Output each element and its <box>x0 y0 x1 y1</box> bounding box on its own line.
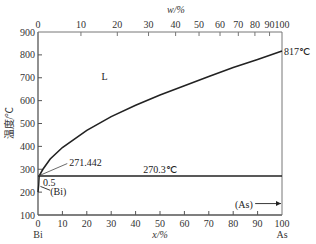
y-tick-label: 900 <box>20 27 35 38</box>
phase-diagram: 1002003004005006007008009000102030405060… <box>0 0 316 244</box>
y-tick-label: 500 <box>20 118 35 129</box>
top-tick-label: 30 <box>144 19 154 30</box>
y-tick-label: 200 <box>20 187 35 198</box>
x-tick-label: 30 <box>106 218 116 229</box>
y-tick-label: 400 <box>20 141 35 152</box>
left-component-label: Bi <box>33 229 43 240</box>
right-component-label: As <box>276 229 287 240</box>
x-tick-label: 10 <box>57 218 67 229</box>
y-tick-label: 600 <box>20 95 35 106</box>
x-tick-label: 60 <box>179 218 189 229</box>
top-tick-label: 20 <box>112 19 122 30</box>
annotations: L817℃271.442270.3℃0.5(Bi)(As) <box>39 46 310 211</box>
y-tick-label: 100 <box>20 210 35 221</box>
as-phase-label: (As) <box>235 199 253 211</box>
x-tick-label: 40 <box>131 218 141 229</box>
x-tick-label: 80 <box>228 218 238 229</box>
x-axis-label: x/% <box>151 229 168 240</box>
top-tick-label: 60 <box>215 19 225 30</box>
y-axis-label: 温度/℃ <box>3 107 15 140</box>
top-tick-label: 0 <box>36 19 41 30</box>
arrow-head-icon <box>276 201 281 206</box>
bi-melting-point-label: 271.442 <box>69 157 102 168</box>
x-tick-label: 70 <box>204 218 214 229</box>
top-axis-label: w/% <box>167 4 185 15</box>
x-tick-label: 90 <box>253 218 263 229</box>
x-tick-label: 20 <box>82 218 92 229</box>
top-tick-label: 10 <box>76 19 86 30</box>
as-melting-point-label: 817℃ <box>284 46 310 57</box>
eutectic-temperature-label: 270.3℃ <box>143 164 177 175</box>
x-tick-label: 0 <box>36 218 41 229</box>
y-tick-label: 800 <box>20 49 35 60</box>
top-tick-label: 100 <box>275 19 290 30</box>
y-tick-label: 700 <box>20 72 35 83</box>
top-tick-label: 40 <box>171 19 181 30</box>
top-tick-label: 70 <box>233 19 243 30</box>
x-tick-label: 100 <box>275 218 290 229</box>
x-tick-label: 50 <box>155 218 165 229</box>
top-tick-label: 90 <box>265 19 275 30</box>
y-tick-label: 300 <box>20 164 35 175</box>
top-tick-label: 50 <box>194 19 204 30</box>
top-tick-label: 80 <box>250 19 260 30</box>
bi-phase-label: (Bi) <box>50 186 66 198</box>
liquid-region-label: L <box>101 71 107 82</box>
